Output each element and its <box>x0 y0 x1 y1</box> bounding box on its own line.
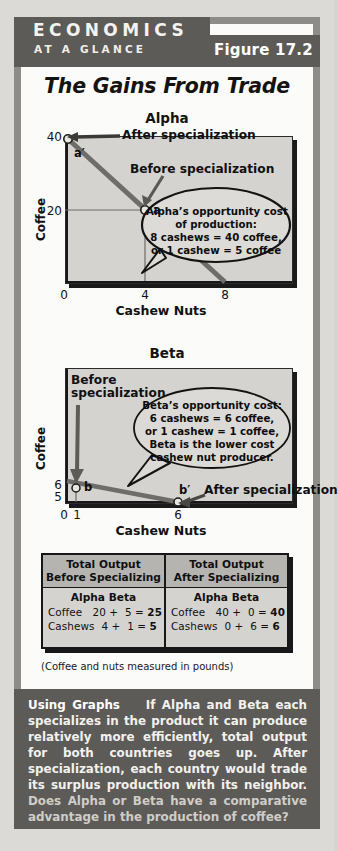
units-note: (Coffee and nuts measured in pounds) <box>41 661 233 672</box>
beta-callout-line-3: or 1 cashew = 1 coffee, <box>142 426 282 439</box>
table-column-after: Total Output After Specializing Alpha Be… <box>166 555 287 647</box>
row-beta: 1 <box>127 620 134 632</box>
caption-lead: Using Graphs <box>28 698 120 712</box>
table-subhead-before: Alpha Beta <box>43 588 164 605</box>
row-total: 5 <box>150 620 157 632</box>
row-label: Cashews <box>48 620 95 632</box>
table-subhead-after: Alpha Beta <box>166 588 287 605</box>
caption-block: Using Graphs If Alpha and Beta each spec… <box>14 689 320 829</box>
table-column-before: Total Output Before Specializing Alpha B… <box>43 555 166 647</box>
row-alpha: 20 <box>93 606 106 618</box>
beta-callout-line-1: Beta’s opportunity cost: <box>142 400 282 413</box>
beta-x-tick-6: 6 <box>167 508 189 522</box>
beta-point-b <box>72 484 80 492</box>
table-header-after: Total Output After Specializing <box>166 555 287 588</box>
table-row: Cashews 0 + 6 = 6 <box>166 619 287 633</box>
row-alpha: 4 <box>101 620 108 632</box>
caption-body: If Alpha and Beta each specializes in th… <box>28 698 307 792</box>
caption-question: Does Alpha or Beta have a comparative ad… <box>28 794 307 824</box>
beta-point-label-b-prime: b′ <box>179 483 190 497</box>
row-total: 6 <box>273 620 280 632</box>
row-alpha: 0 <box>224 620 231 632</box>
row-total: 25 <box>147 606 162 618</box>
beta-point-label-b: b <box>84 480 92 494</box>
table-row: Coffee 40 + 0 = 40 <box>166 605 287 619</box>
table-header-after-line2: After Specializing <box>166 571 287 584</box>
row-beta: 0 <box>248 606 255 618</box>
table-row: Cashews 4 + 1 = 5 <box>43 619 164 633</box>
beta-callout-line-5: cashew nut producer. <box>142 452 282 465</box>
table-header-before: Total Output Before Specializing <box>43 555 164 588</box>
row-label: Coffee <box>171 606 205 618</box>
caption-paragraph: Using Graphs If Alpha and Beta each spec… <box>28 698 307 826</box>
beta-arrow-before <box>77 405 78 473</box>
beta-callout-line-4: Beta is the lower cost <box>142 439 282 452</box>
row-beta: 6 <box>250 620 257 632</box>
table-header-after-line1: Total Output <box>166 558 287 571</box>
table-row: Coffee 20 + 5 = 25 <box>43 605 164 619</box>
beta-x-tick-1: 1 <box>66 508 88 522</box>
output-table: Total Output Before Specializing Alpha B… <box>41 553 289 649</box>
row-label: Cashews <box>171 620 218 632</box>
table-header-before-line1: Total Output <box>43 558 164 571</box>
row-alpha: 40 <box>216 606 229 618</box>
table-header-before-line2: Before Specializing <box>43 571 164 584</box>
row-total: 40 <box>270 606 285 618</box>
row-beta: 5 <box>125 606 132 618</box>
beta-annotation-before-line2: specialization <box>71 387 166 400</box>
beta-annotation-after: After specialization <box>204 484 338 497</box>
row-label: Coffee <box>48 606 82 618</box>
beta-x-axis-label: Cashew Nuts <box>0 523 328 538</box>
beta-callout-line-2: 6 cashews = 6 coffee, <box>142 413 282 426</box>
